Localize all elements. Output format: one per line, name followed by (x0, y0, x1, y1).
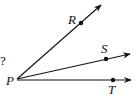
point-S-label: S (101, 41, 108, 56)
ray-PR-line (17, 5, 101, 79)
vertex-P-label: P (5, 73, 14, 88)
point-R-label: R (67, 12, 76, 27)
ray-PR: R (17, 5, 101, 79)
ray-PS-line (17, 54, 130, 79)
point-R-dot (79, 21, 83, 25)
question-mark-fragment: ? (0, 53, 6, 68)
angle-diagram: ? R S T P (0, 0, 138, 99)
ray-PT: T (17, 78, 131, 97)
point-S-dot (104, 57, 108, 61)
ray-PS: S (17, 41, 130, 79)
point-T-label: T (108, 82, 116, 97)
